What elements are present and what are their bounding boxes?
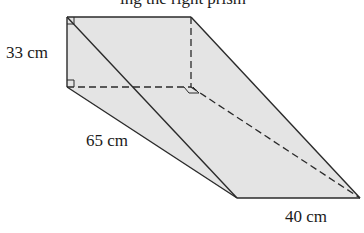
- height-label: 33 cm: [6, 43, 48, 62]
- hypotenuse-label: 65 cm: [86, 131, 128, 150]
- prism-diagram: ing the right prism 33 cm 65 cm 40 cm: [0, 0, 364, 233]
- length-label: 40 cm: [285, 207, 327, 226]
- caption-fragment: ing the right prism: [120, 0, 246, 8]
- prism-face: [67, 17, 360, 198]
